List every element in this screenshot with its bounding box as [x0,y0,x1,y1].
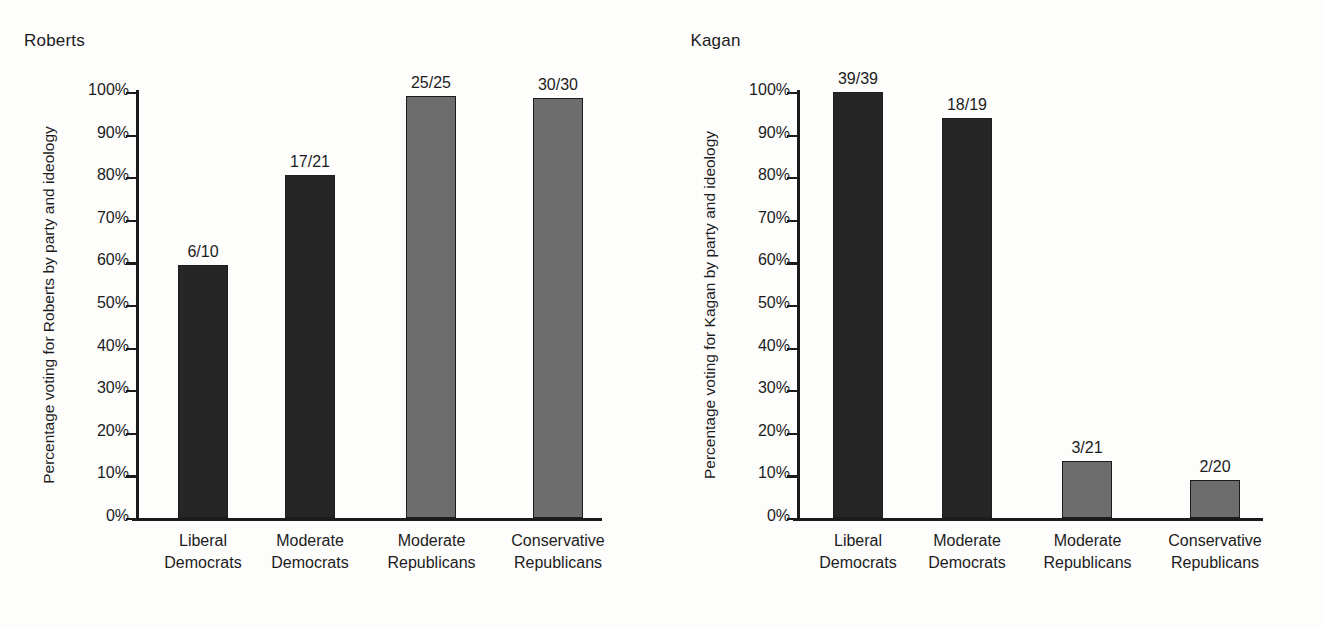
y-tick-label: 50% [758,294,790,312]
y-tick-label: 70% [758,209,790,227]
bar-value-label: 30/30 [533,76,583,94]
y-tick-label: 80% [97,166,129,184]
y-axis-line [136,90,139,520]
y-tick-label: 80% [758,166,790,184]
y-tick-label: 60% [97,251,129,269]
bar-value-label: 17/21 [285,153,335,171]
x-category-label: Conservative Republicans [493,530,623,574]
y-axis-line [797,90,800,520]
x-category-line: Moderate [369,530,494,552]
bar[interactable] [285,175,335,518]
x-category-label: Moderate Democrats [907,530,1027,574]
x-category-line: Democrats [143,552,263,574]
bar[interactable] [833,92,883,518]
x-category-line: Republicans [493,552,623,574]
x-category-label: Liberal Democrats [143,530,263,574]
y-tick-label: 90% [97,124,129,142]
y-axis-title-kagan: Percentage voting for Kagan by party and… [701,92,723,518]
y-tick-label: 10% [97,464,129,482]
plot-area-roberts: 100% 90% 80% 70% 60% 50% [136,92,606,518]
plot-area-kagan: 100% 90% 80% 70% 60% 50% [797,92,1267,518]
y-tick-label: 40% [758,337,790,355]
x-category-line: Moderate [1025,530,1150,552]
x-category-line: Moderate [250,530,370,552]
bar-value-label: 6/10 [178,243,228,261]
y-tick-label: 0% [767,507,790,525]
x-category-line: Liberal [798,530,918,552]
y-tick-label: 50% [97,294,129,312]
y-tick-label: 100% [749,81,790,99]
x-category-label: Moderate Democrats [250,530,370,574]
y-tick-label: 70% [97,209,129,227]
x-category-line: Conservative [493,530,623,552]
x-category-line: Republicans [369,552,494,574]
x-category-line: Liberal [143,530,263,552]
y-tick-label: 20% [97,422,129,440]
figure: Roberts Percentage voting for Roberts by… [0,0,1322,627]
x-category-line: Democrats [250,552,370,574]
y-tick-label: 30% [97,379,129,397]
chart-panel-kagan: Kagan Percentage voting for Kagan by par… [661,0,1322,627]
x-axis-line [132,518,602,521]
x-category-line: Democrats [907,552,1027,574]
chart-panel-roberts: Roberts Percentage voting for Roberts by… [0,0,661,627]
x-axis-line [793,518,1263,521]
chart-title-kagan: Kagan [385,31,1046,51]
chart-title-roberts: Roberts [0,31,385,51]
y-tick-label: 0% [106,507,129,525]
x-category-label: Conservative Republicans [1150,530,1280,574]
y-tick-label: 90% [758,124,790,142]
y-tick-label: 100% [88,81,129,99]
bar-value-label: 3/21 [1062,439,1112,457]
bar-value-label: 25/25 [406,74,456,92]
bar[interactable] [533,98,583,518]
y-tick-label: 30% [758,379,790,397]
y-tick-label: 40% [97,337,129,355]
x-category-label: Liberal Democrats [798,530,918,574]
bar[interactable] [942,118,992,518]
x-category-line: Conservative [1150,530,1280,552]
y-tick-label: 20% [758,422,790,440]
y-axis-title-roberts: Percentage voting for Roberts by party a… [40,92,62,518]
bar[interactable] [178,265,228,519]
y-tick-label: 10% [758,464,790,482]
x-category-label: Moderate Republicans [1025,530,1150,574]
x-category-line: Moderate [907,530,1027,552]
bar[interactable] [1062,461,1112,519]
bar[interactable] [406,96,456,518]
bar-value-label: 2/20 [1190,458,1240,476]
bar[interactable] [1190,480,1240,518]
x-category-line: Republicans [1150,552,1280,574]
x-category-label: Moderate Republicans [369,530,494,574]
x-category-line: Democrats [798,552,918,574]
bar-value-label: 39/39 [833,70,883,88]
y-tick-label: 60% [758,251,790,269]
bar-value-label: 18/19 [942,96,992,114]
x-category-line: Republicans [1025,552,1150,574]
